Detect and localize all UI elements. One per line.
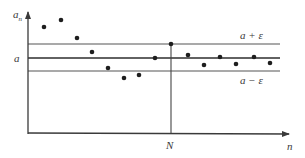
x-axis-label: n xyxy=(287,140,293,152)
limit-label: a xyxy=(14,52,20,64)
sequence-point xyxy=(153,56,158,61)
sequence-point xyxy=(234,62,239,67)
sequence-point xyxy=(186,53,191,58)
sequence-point xyxy=(42,25,47,30)
upper-bound-label: a + ε xyxy=(240,29,263,41)
convergence-diagram: an a a + ε a − ε N n xyxy=(0,0,305,158)
sequence-point xyxy=(106,66,111,71)
sequence-point xyxy=(202,63,207,68)
x-axis xyxy=(28,133,289,134)
sequence-point xyxy=(59,18,64,23)
sequence-point xyxy=(169,42,174,47)
n-marker-label: N xyxy=(165,139,174,151)
sequence-point xyxy=(268,61,273,66)
lower-bound-label: a − ε xyxy=(240,74,263,86)
sequence-point xyxy=(252,55,257,60)
sequence-point xyxy=(90,50,95,55)
sequence-point xyxy=(218,55,223,60)
sequence-point xyxy=(137,73,142,78)
sequence-point xyxy=(75,36,80,41)
sequence-point xyxy=(122,76,127,81)
y-axis-label: an xyxy=(13,8,23,23)
